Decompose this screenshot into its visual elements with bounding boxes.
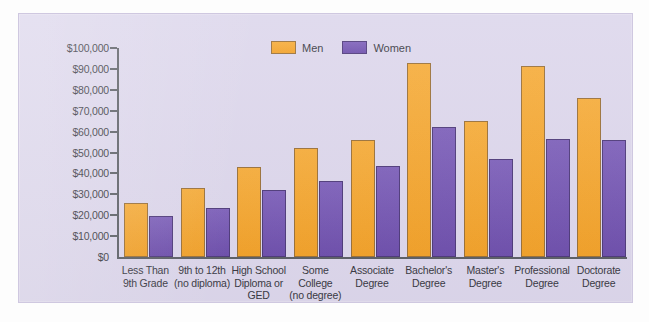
y-axis-line (117, 48, 119, 257)
bar-men (407, 63, 431, 257)
bar-group (181, 48, 230, 257)
bar-men (521, 66, 545, 257)
y-axis-tick-label: $40,000 (72, 167, 109, 179)
y-axis-tick (110, 172, 117, 174)
chart-panel: Men Women $100,000$90,000$80,000$70,000$… (18, 13, 633, 303)
bar-men (351, 140, 375, 257)
y-axis-tick-label: $20,000 (72, 209, 109, 221)
bar-women (602, 140, 626, 257)
y-axis-tick (110, 68, 117, 70)
y-axis-tick (110, 89, 117, 91)
y-axis-tick (110, 131, 117, 133)
bar-women (546, 139, 570, 257)
y-axis-tick-label: $100,000 (67, 42, 109, 54)
bar-women (376, 166, 400, 257)
bar-men (124, 203, 148, 257)
chart-screenshot: Men Women $100,000$90,000$80,000$70,000$… (0, 0, 649, 322)
bar-women (206, 208, 230, 257)
bar-men (577, 98, 601, 257)
bar-men (294, 148, 318, 257)
bar-men (181, 188, 205, 257)
bar-group (237, 48, 286, 257)
y-axis-tick-label: $90,000 (72, 63, 109, 75)
y-axis-tick (110, 214, 117, 216)
y-axis-tick (110, 47, 117, 49)
x-axis-line (117, 257, 627, 259)
y-axis-labels: $100,000$90,000$80,000$70,000$60,000$50,… (41, 48, 109, 257)
y-axis-tick-label: $10,000 (72, 230, 109, 242)
x-axis-label: DoctorateDegree (564, 264, 633, 289)
bar-women (262, 190, 286, 257)
y-axis-tick (110, 152, 117, 154)
bar-group (351, 48, 400, 257)
y-axis-tick (110, 193, 117, 195)
y-axis-tick-label: $70,000 (72, 105, 109, 117)
y-axis-tick-label: $60,000 (72, 126, 109, 138)
bar-men (237, 167, 261, 257)
bar-group (294, 48, 343, 257)
bar-women (432, 127, 456, 257)
plot-area (117, 48, 627, 257)
bar-women (489, 159, 513, 257)
bar-group (407, 48, 456, 257)
y-axis-tick-label: $80,000 (72, 84, 109, 96)
bar-women (319, 181, 343, 257)
y-axis-tick (110, 110, 117, 112)
x-axis-labels: Less Than9th Grade9th to 12th(no diploma… (117, 264, 627, 316)
bar-women (149, 216, 173, 257)
y-axis-tick-label: $30,000 (72, 188, 109, 200)
bar-group (464, 48, 513, 257)
bar-men (464, 121, 488, 257)
bar-group (521, 48, 570, 257)
y-axis-tick (110, 235, 117, 237)
y-axis-tick-label: $0 (98, 251, 109, 263)
bar-group (577, 48, 626, 257)
bar-group (124, 48, 173, 257)
y-axis-tick-label: $50,000 (72, 147, 109, 159)
